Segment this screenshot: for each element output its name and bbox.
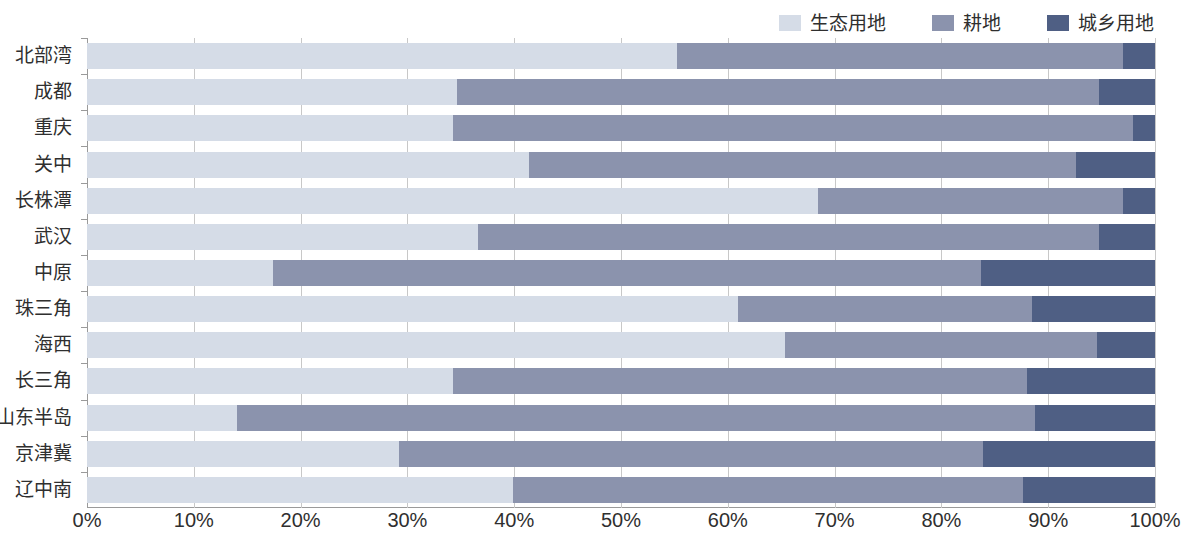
x-axis-tick-label: 20% xyxy=(281,508,321,532)
y-axis-tick xyxy=(81,327,87,328)
bar-segment-urban-rural xyxy=(981,260,1155,286)
y-axis-tick xyxy=(81,38,87,39)
y-axis-tick xyxy=(81,183,87,184)
y-axis-tick xyxy=(81,110,87,111)
bar-segment-ecological xyxy=(87,79,457,105)
bar-row xyxy=(87,368,1155,394)
bar-segment-urban-rural xyxy=(1097,332,1155,358)
x-axis-tick-label: 50% xyxy=(601,508,641,532)
legend-label-urban-rural: 城乡用地 xyxy=(1078,14,1154,33)
bar-row xyxy=(87,188,1155,214)
bar-segment-cultivated xyxy=(677,43,1123,69)
bar-segment-cultivated xyxy=(529,152,1076,178)
bar-segment-cultivated xyxy=(237,405,1036,431)
y-axis-tick xyxy=(81,436,87,437)
legend-item-urban-rural: 城乡用地 xyxy=(1047,14,1154,33)
legend-item-ecological: 生态用地 xyxy=(779,14,886,33)
y-axis-tick xyxy=(81,219,87,220)
bar-row xyxy=(87,405,1155,431)
bar-row xyxy=(87,441,1155,467)
bar-segment-ecological xyxy=(87,332,785,358)
bar-segment-cultivated xyxy=(738,296,1032,322)
plot-area xyxy=(87,38,1155,508)
bar-segment-urban-rural xyxy=(983,441,1155,467)
y-axis-label: 京津冀 xyxy=(0,444,72,464)
y-axis-label: 重庆 xyxy=(0,118,72,138)
bar-segment-cultivated xyxy=(457,79,1100,105)
x-axis-tick-label: 40% xyxy=(494,508,534,532)
y-axis-tick xyxy=(81,255,87,256)
y-axis-tick xyxy=(81,74,87,75)
bar-segment-urban-rural xyxy=(1076,152,1155,178)
x-axis-tick-label: 0% xyxy=(73,508,102,532)
bar-row xyxy=(87,79,1155,105)
y-axis-label: 关中 xyxy=(0,155,72,175)
y-axis-label: 北部湾 xyxy=(0,46,72,66)
bar-segment-cultivated xyxy=(513,477,1022,503)
bar-segment-ecological xyxy=(87,43,677,69)
x-axis-tick-label: 10% xyxy=(174,508,214,532)
y-axis-label: 中原 xyxy=(0,263,72,283)
bar-segment-ecological xyxy=(87,152,529,178)
legend-swatch-urban-rural xyxy=(1047,15,1069,31)
legend-label-ecological: 生态用地 xyxy=(810,14,886,33)
bar-segment-urban-rural xyxy=(1133,115,1155,141)
bar-row xyxy=(87,332,1155,358)
y-axis-label: 珠三角 xyxy=(0,299,72,319)
x-axis-tick-label: 60% xyxy=(708,508,748,532)
y-axis-label: 武汉 xyxy=(0,227,72,247)
bar-segment-ecological xyxy=(87,296,738,322)
y-axis-tick xyxy=(81,472,87,473)
bar-row xyxy=(87,115,1155,141)
bar-segment-urban-rural xyxy=(1027,368,1155,394)
bar-segment-urban-rural xyxy=(1035,405,1155,431)
x-axis-labels: 0%10%20%30%40%50%60%70%80%90%100% xyxy=(0,508,1179,545)
bar-segment-ecological xyxy=(87,368,453,394)
bar-row xyxy=(87,43,1155,69)
legend-label-cultivated: 耕地 xyxy=(963,14,1001,33)
bar-segment-cultivated xyxy=(818,188,1123,214)
bar-segment-cultivated xyxy=(399,441,983,467)
y-axis-label: 成都 xyxy=(0,82,72,102)
bar-segment-cultivated xyxy=(273,260,981,286)
bar-segment-cultivated xyxy=(785,332,1097,358)
y-axis-label: 长株潭 xyxy=(0,191,72,211)
bar-segment-ecological xyxy=(87,224,478,250)
bar-segment-ecological xyxy=(87,441,399,467)
y-axis-tick xyxy=(81,400,87,401)
legend-swatch-cultivated xyxy=(932,15,954,31)
x-axis-tick-label: 70% xyxy=(815,508,855,532)
bar-segment-ecological xyxy=(87,260,273,286)
legend-item-cultivated: 耕地 xyxy=(932,14,1001,33)
bar-row xyxy=(87,296,1155,322)
plot-wrapper: 北部湾成都重庆关中长株潭武汉中原珠三角海西长三角山东半岛京津冀辽中南 xyxy=(0,38,1179,508)
y-axis-label: 长三角 xyxy=(0,371,72,391)
bar-segment-ecological xyxy=(87,188,818,214)
x-axis-tick-label: 100% xyxy=(1129,508,1180,532)
bar-segment-urban-rural xyxy=(1032,296,1155,322)
y-axis-tick xyxy=(81,146,87,147)
bar-segment-urban-rural xyxy=(1123,43,1155,69)
bar-segment-ecological xyxy=(87,477,513,503)
bar-segment-cultivated xyxy=(453,115,1132,141)
gridline-100 xyxy=(1155,38,1156,508)
bar-segment-cultivated xyxy=(453,368,1027,394)
bar-row xyxy=(87,260,1155,286)
bar-row xyxy=(87,224,1155,250)
bar-row xyxy=(87,477,1155,503)
x-axis-tick-label: 30% xyxy=(387,508,427,532)
y-axis-label: 辽中南 xyxy=(0,480,72,500)
bar-segment-cultivated xyxy=(478,224,1100,250)
y-axis-tick xyxy=(81,291,87,292)
y-axis-tick xyxy=(81,363,87,364)
bar-segment-ecological xyxy=(87,115,453,141)
bar-segment-urban-rural xyxy=(1099,79,1155,105)
y-axis-label: 山东半岛 xyxy=(0,408,72,428)
bar-row xyxy=(87,152,1155,178)
y-axis-labels: 北部湾成都重庆关中长株潭武汉中原珠三角海西长三角山东半岛京津冀辽中南 xyxy=(0,38,80,508)
x-axis-tick-label: 80% xyxy=(921,508,961,532)
chart-legend: 生态用地 耕地 城乡用地 xyxy=(0,8,1179,38)
bar-segment-ecological xyxy=(87,405,237,431)
x-axis-tick-label: 90% xyxy=(1028,508,1068,532)
